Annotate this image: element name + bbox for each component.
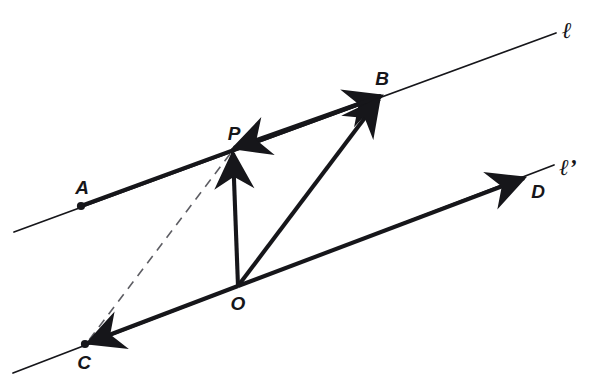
point-label-B: B — [375, 69, 389, 88]
vector-geometry-diagram: A P B C O D ℓ ℓ’ — [0, 0, 592, 390]
point-dots-group — [77, 202, 89, 348]
line-label-l-prime: ℓ’ — [559, 156, 577, 179]
line-label-l: ℓ — [562, 19, 572, 42]
vector-O-to-C — [88, 286, 238, 343]
point-label-C: C — [77, 353, 91, 372]
vector-B-to-P — [234, 96, 381, 148]
point-label-A: A — [75, 178, 89, 197]
point-label-O: O — [231, 294, 246, 313]
point-label-D: D — [531, 182, 545, 201]
point-dot-A — [77, 202, 85, 210]
point-dot-C — [81, 340, 89, 348]
point-label-P: P — [228, 124, 241, 143]
vector-O-to-P — [233, 153, 238, 286]
vectors-group — [81, 96, 524, 344]
